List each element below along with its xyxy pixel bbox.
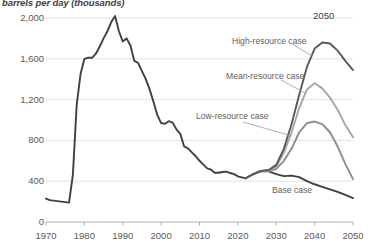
series-annotation-label: Mean-resource case <box>226 72 304 81</box>
annotation-leader-line <box>243 122 292 136</box>
series-annotation-label: Low-resource case <box>196 112 269 121</box>
end-year-label: 2050 <box>313 11 334 21</box>
series-line <box>46 16 246 203</box>
series-annotation-label: High-resource case <box>232 37 307 46</box>
series-annotation-label: Base case <box>272 186 312 195</box>
